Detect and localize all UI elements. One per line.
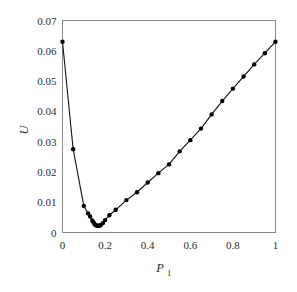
data-point [156, 171, 160, 175]
x-tick-label: 0.8 [226, 239, 240, 251]
data-point [220, 99, 224, 103]
x-tick-label: 0.4 [141, 239, 155, 251]
y-tick-label: 0.06 [37, 45, 57, 57]
data-point [167, 162, 171, 166]
data-point [273, 40, 277, 44]
y-axis-title-group: U [17, 125, 31, 135]
data-point [241, 74, 245, 78]
y-tick-label: 0.02 [37, 166, 56, 178]
y-tick-label: 0.01 [37, 196, 56, 208]
data-point [124, 198, 128, 202]
y-tick-label: 0.04 [37, 105, 57, 117]
x-axis-title: P [155, 261, 164, 275]
y-tick-label: 0.03 [37, 136, 57, 148]
y-tick-label: 0 [51, 227, 57, 239]
y-tick-label: 0.05 [37, 75, 57, 87]
data-point [188, 138, 192, 142]
data-point [177, 149, 181, 153]
data-point [209, 112, 213, 116]
data-point [135, 190, 139, 194]
x-tick-label: 0 [60, 239, 66, 251]
y-tick-label: 0.07 [37, 15, 57, 27]
data-point [103, 218, 107, 222]
data-point [114, 208, 118, 212]
data-point [107, 213, 111, 217]
chart-plot-area: 00.010.020.030.040.050.060.07 00.20.40.6… [0, 0, 297, 292]
data-point [252, 62, 256, 66]
data-point [88, 214, 92, 218]
data-point [146, 180, 150, 184]
data-point [199, 126, 203, 130]
data-point [71, 147, 75, 151]
data-point [231, 86, 235, 90]
x-tick-label: 0.2 [98, 239, 112, 251]
x-tick-label: 1 [273, 239, 279, 251]
chart-figure: 00.010.020.030.040.050.060.07 00.20.40.6… [0, 0, 297, 292]
data-point [60, 40, 64, 44]
data-point [263, 51, 267, 55]
x-tick-label: 0.6 [183, 239, 197, 251]
data-point [82, 204, 86, 208]
y-axis-title: U [17, 125, 31, 135]
x-axis-title-subscript: 1 [167, 268, 171, 278]
